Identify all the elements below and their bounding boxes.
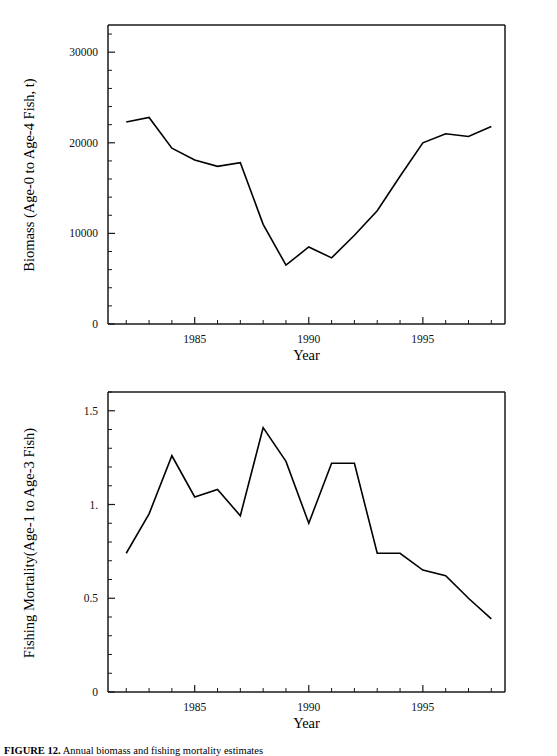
y-axis-title: Fishing Mortality(Age-1 to Age-3 Fish) (21, 428, 38, 659)
figure-caption: FIGURE 12. Annual biomass and fishing mo… (4, 745, 553, 756)
x-axis-tick-label: 1995 (411, 701, 434, 713)
x-axis-tick-label: 1995 (411, 333, 434, 345)
chart-panel-mortality: 00.51.1.5198519901995YearFishing Mortali… (0, 368, 557, 740)
data-series-line (126, 117, 491, 265)
y-axis-title: Biomass (Age-0 to Age-4 Fish, t) (21, 78, 38, 271)
mortality-line-chart: 00.51.1.5198519901995YearFishing Mortali… (0, 368, 557, 740)
x-axis-tick-label: 1990 (297, 701, 320, 713)
y-axis-tick-label: 0.5 (84, 592, 99, 604)
figure-caption-prefix: FIGURE 12. (4, 745, 61, 756)
y-axis-tick-label: 0 (92, 686, 98, 698)
figure-root: 0100002000030000198519901995YearBiomass … (0, 0, 557, 756)
y-axis-tick-label: 20000 (69, 137, 98, 149)
x-axis-tick-label: 1990 (297, 333, 320, 345)
x-axis-title: Year (293, 347, 320, 363)
y-axis-tick-label: 1. (89, 499, 98, 511)
biomass-line-chart: 0100002000030000198519901995YearBiomass … (0, 0, 557, 372)
data-series-line (126, 428, 491, 619)
x-axis-tick-label: 1985 (183, 701, 206, 713)
x-axis-tick-label: 1985 (183, 333, 206, 345)
y-axis-tick-label: 10000 (69, 227, 98, 239)
x-axis-title: Year (293, 715, 320, 731)
figure-caption-text: Annual biomass and fishing mortality est… (63, 745, 263, 756)
y-axis-tick-label: 1.5 (84, 405, 99, 417)
y-axis-tick-label: 30000 (69, 46, 98, 58)
chart-panel-biomass: 0100002000030000198519901995YearBiomass … (0, 0, 557, 372)
y-axis-tick-label: 0 (92, 318, 98, 330)
